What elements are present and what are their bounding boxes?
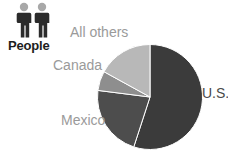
people-icon-block: People xyxy=(8,2,68,58)
pie-label-us: U.S. xyxy=(202,85,228,101)
pie-label-all-others: All others xyxy=(70,24,128,40)
people-icon xyxy=(12,2,56,38)
pie-label-canada: Canada xyxy=(53,57,102,73)
chart-canvas: People All others Canada Mexico U.S. xyxy=(0,0,228,154)
pie-label-mexico: Mexico xyxy=(61,112,105,128)
pie-chart xyxy=(97,44,203,150)
people-icon-caption: People xyxy=(8,38,49,53)
